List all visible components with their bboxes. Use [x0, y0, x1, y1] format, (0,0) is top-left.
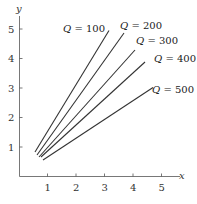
- line-q200: [37, 33, 124, 155]
- xtick-label: 3: [102, 182, 108, 193]
- xtick-label: 2: [73, 182, 79, 193]
- data-lines: [35, 31, 153, 161]
- ytick-label: 3: [8, 83, 14, 94]
- ytick-label: 4: [8, 53, 14, 64]
- xtick-label: 5: [159, 182, 165, 193]
- ytick-label: 2: [8, 112, 14, 123]
- y-axis-label: y: [15, 3, 22, 14]
- label-q500: Q = 500: [152, 84, 194, 95]
- label-q100: Q = 100: [63, 23, 105, 34]
- label-q400: Q = 400: [154, 53, 196, 64]
- xtick-label: 1: [45, 182, 51, 193]
- label-q300: Q = 300: [136, 35, 178, 46]
- chart-canvas: 1 2 3 4 5 1 2 3 4 5 y x Q = 100 Q = 200: [0, 0, 197, 204]
- ytick-label: 5: [8, 24, 14, 35]
- xtick-label: 4: [130, 182, 136, 193]
- y-ticks: 1 2 3 4 5: [8, 24, 23, 153]
- ytick-label: 1: [8, 142, 14, 153]
- label-q200: Q = 200: [120, 20, 162, 31]
- line-labels: Q = 100 Q = 200 Q = 300 Q = 400 Q = 500: [63, 20, 196, 95]
- x-axis-label: x: [179, 170, 185, 181]
